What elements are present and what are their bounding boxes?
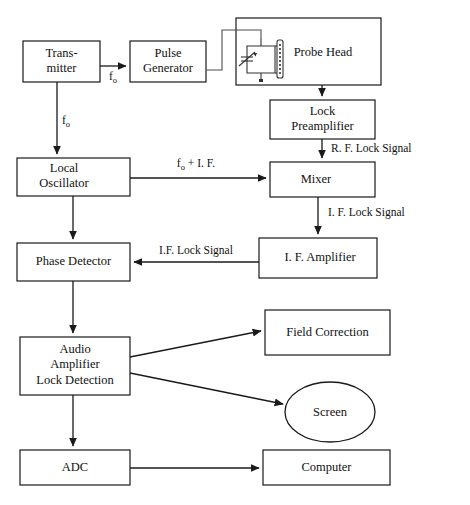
edge-label-f0-transmitter-to-lo: fo <box>62 114 70 129</box>
phase-detector-label: Phase Detector <box>36 254 112 268</box>
field-correction-label: Field Correction <box>286 325 369 339</box>
computer-label: Computer <box>302 460 353 474</box>
transmitter-label-line1: Trans- <box>45 46 77 60</box>
block-adc[interactable]: ADC <box>20 450 130 485</box>
edge-label-f0-plus-if: fo + I. F. <box>177 157 215 172</box>
block-field-correction[interactable]: Field Correction <box>265 310 390 355</box>
local-oscillator-label-line1: Local <box>50 161 79 175</box>
block-audio-amplifier[interactable]: Audio Amplifier Lock Detection <box>20 337 130 395</box>
edge-label-f0-transmitter-to-pulse: fo <box>109 70 117 85</box>
f0-if-tail: + I. F. <box>185 157 215 169</box>
audio-amplifier-label-line2: Amplifier <box>50 357 100 371</box>
block-if-amplifier[interactable]: I. F. Amplifier <box>259 238 377 278</box>
arrow-audio-amplifier-to-screen <box>130 373 283 404</box>
pulse-generator-label-line1: Pulse <box>154 46 182 60</box>
edge-label-if-lock-signal-mixer-out: I. F. Lock Signal <box>328 206 405 219</box>
mixer-label: Mixer <box>301 172 332 186</box>
cropped-header-text <box>0 0 470 12</box>
block-computer[interactable]: Computer <box>263 450 390 485</box>
block-transmitter[interactable]: Trans- mitter <box>23 41 100 82</box>
block-phase-detector[interactable]: Phase Detector <box>17 243 130 281</box>
edge-label-if-lock-signal-to-phase-detector: I.F. Lock Signal <box>159 244 233 257</box>
if-amplifier-label: I. F. Amplifier <box>284 250 356 264</box>
block-local-oscillator[interactable]: Local Oscillator <box>17 158 130 196</box>
edge-label-rf-lock-signal: R. F. Lock Signal <box>331 142 412 155</box>
block-lock-preamplifier[interactable]: Lock Preamplifier <box>270 100 375 139</box>
figure-caption <box>0 490 470 505</box>
screen-label: Screen <box>313 405 348 419</box>
lock-preamplifier-label-line2: Preamplifier <box>291 119 354 133</box>
block-pulse-generator[interactable]: Pulse Generator <box>130 41 206 82</box>
f0-lo-subscript: o <box>66 119 70 129</box>
block-mixer[interactable]: Mixer <box>270 162 375 197</box>
adc-label: ADC <box>62 460 88 474</box>
diagram-canvas: Probe Head <box>0 0 470 505</box>
audio-amplifier-label-line1: Audio <box>59 342 90 356</box>
audio-amplifier-label-line3: Lock Detection <box>36 373 114 387</box>
block-screen[interactable]: Screen <box>285 382 375 442</box>
pulse-generator-label-line2: Generator <box>143 61 194 75</box>
block-probe-head[interactable]: Probe Head <box>236 18 381 85</box>
arrow-audio-amplifier-to-field-correction <box>130 331 261 357</box>
f0-subscript: o <box>113 75 117 85</box>
lock-preamplifier-label-line1: Lock <box>310 104 336 118</box>
block-diagram: Probe Head <box>0 0 470 505</box>
probe-head-label: Probe Head <box>294 45 353 59</box>
transmitter-label-line2: mitter <box>47 61 78 75</box>
local-oscillator-label-line2: Oscillator <box>39 176 89 190</box>
